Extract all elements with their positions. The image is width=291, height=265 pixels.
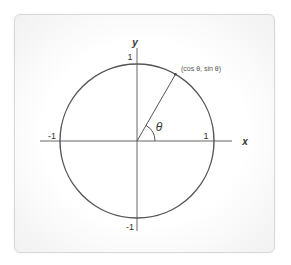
unit-circle-diagram: y x 1 -1 -1 1 (cos θ, sin θ) θ bbox=[0, 0, 291, 265]
point-coordinate-label: (cos θ, sin θ) bbox=[181, 65, 221, 73]
angle-arc bbox=[146, 125, 155, 141]
x-axis-label: x bbox=[241, 136, 248, 147]
y-axis-label: y bbox=[131, 37, 138, 48]
angle-theta-label: θ bbox=[156, 120, 163, 134]
y-tick-neg: -1 bbox=[126, 222, 134, 232]
x-tick-neg: -1 bbox=[48, 131, 56, 141]
x-tick-pos: 1 bbox=[203, 131, 208, 141]
point-on-circle bbox=[174, 73, 177, 76]
y-tick-pos: 1 bbox=[127, 52, 132, 62]
